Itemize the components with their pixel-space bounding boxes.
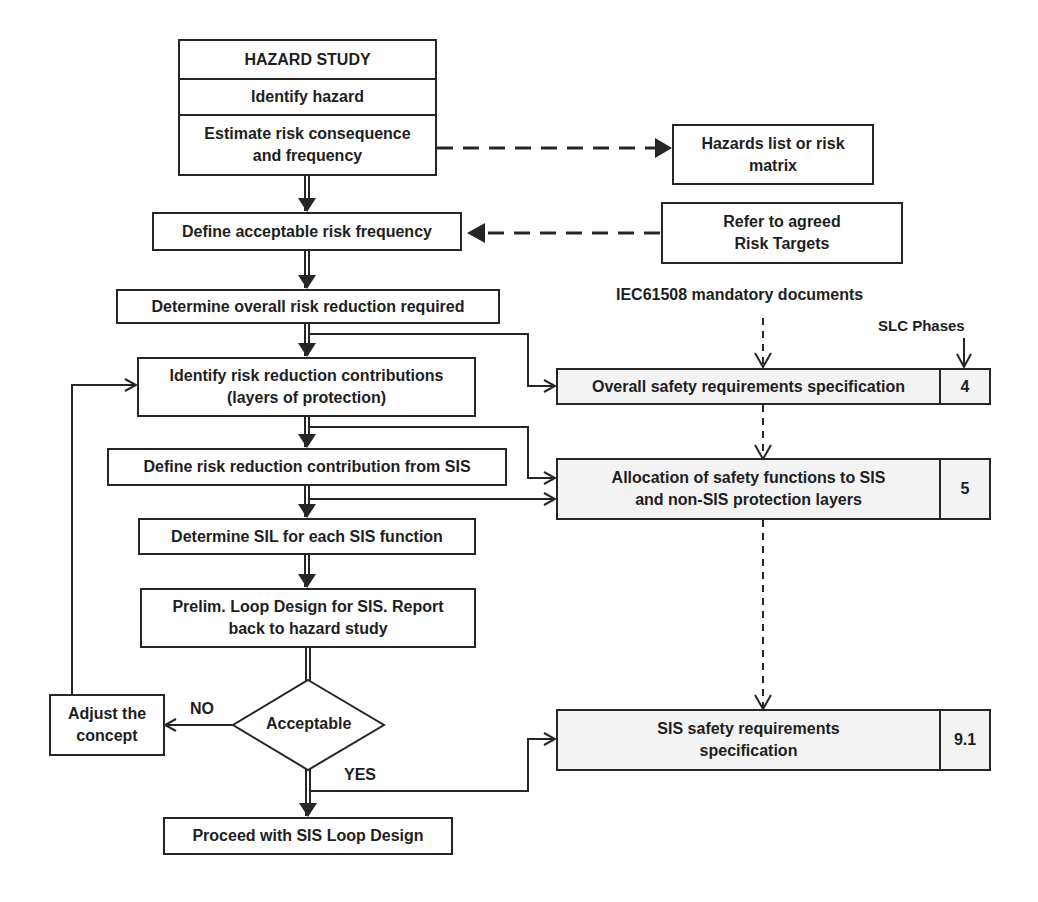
estimate-risk: Estimate risk consequence and frequency	[180, 116, 435, 174]
yes-label: YES	[344, 766, 376, 784]
risk-targets-box: Refer to agreed Risk Targets	[661, 202, 903, 264]
overall-safety-spec-text: Overall safety requirements specificatio…	[592, 376, 905, 398]
decision-label: Acceptable	[266, 715, 351, 733]
identify-contributions-box: Identify risk reduction contributions (l…	[137, 357, 476, 417]
adjust-concept-box: Adjust the concept	[49, 694, 165, 756]
define-acceptable-risk-box: Define acceptable risk frequency	[152, 212, 462, 251]
hazards-list-box: Hazards list or risk matrix	[672, 124, 874, 185]
overall-safety-spec-box: Overall safety requirements specificatio…	[556, 368, 991, 405]
hazard-study-title: HAZARD STUDY	[180, 41, 435, 79]
phase-number: 4	[939, 370, 989, 403]
no-label: NO	[190, 700, 214, 718]
proceed-loop-design-box: Proceed with SIS Loop Design	[163, 817, 453, 855]
phase-number: 5	[939, 460, 989, 518]
identify-hazard: Identify hazard	[180, 80, 435, 114]
prelim-loop-design-box: Prelim. Loop Design for SIS. Report back…	[140, 588, 476, 648]
allocation-safety-functions-box: Allocation of safety functions to SIS an…	[556, 458, 991, 520]
determine-sil-box: Determine SIL for each SIS function	[138, 518, 476, 555]
hazard-study-box: HAZARD STUDY Identify hazard Estimate ri…	[178, 39, 437, 176]
phase-number: 9.1	[939, 711, 989, 769]
iec61508-mandatory-docs-label: IEC61508 mandatory documents	[616, 286, 863, 304]
slc-phases-label: SLC Phases	[878, 317, 965, 334]
determine-overall-risk-box: Determine overall risk reduction require…	[116, 289, 500, 324]
define-sis-contribution-box: Define risk reduction contribution from …	[107, 448, 507, 486]
sis-safety-spec-box: SIS safety requirements specification 9.…	[556, 709, 991, 771]
